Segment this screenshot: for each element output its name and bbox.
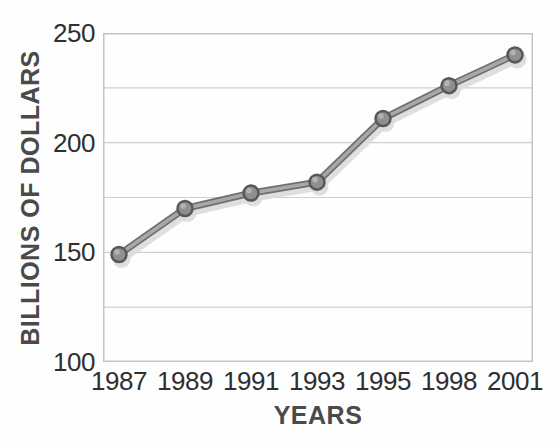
y-tick-label: 150 xyxy=(53,237,95,267)
y-tick-label: 250 xyxy=(53,18,95,48)
data-point-marker xyxy=(112,247,127,262)
x-tick-label: 2001 xyxy=(482,366,548,396)
data-point-marker xyxy=(310,175,325,190)
y-tick-label: 200 xyxy=(53,128,95,158)
x-tick-label: 1998 xyxy=(416,366,482,396)
plot-area xyxy=(103,33,533,362)
x-axis-title: YEARS xyxy=(103,399,533,431)
data-point-marker xyxy=(442,78,457,93)
x-tick-label: 1987 xyxy=(86,366,152,396)
data-point-marker xyxy=(376,111,391,126)
x-tick-label: 1991 xyxy=(218,366,284,396)
data-point-marker xyxy=(244,186,259,201)
data-point-marker xyxy=(178,201,193,216)
x-tick-label: 1995 xyxy=(350,366,416,396)
y-axis-title: BILLIONS OF DOLLARS xyxy=(15,28,45,368)
data-point-marker xyxy=(508,47,523,62)
x-tick-label: 1989 xyxy=(152,366,218,396)
line-chart-figure: BILLIONS OF DOLLARS 100150200250 1987198… xyxy=(0,0,553,442)
x-tick-label: 1993 xyxy=(284,366,350,396)
